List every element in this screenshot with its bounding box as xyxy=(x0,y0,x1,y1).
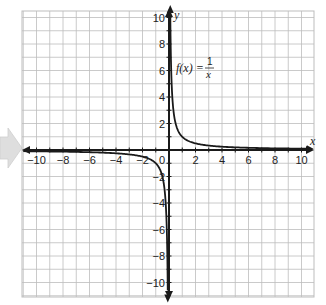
y-tick-label: −10 xyxy=(146,277,165,289)
x-tick-label: 4 xyxy=(219,154,225,166)
x-tick-label: 8 xyxy=(272,154,278,166)
function-graph: −10−8−6−4−2246810108642−2−4−6−8−100xy f(… xyxy=(0,0,326,305)
x-tick-label: −10 xyxy=(27,154,46,166)
function-label-numerator: 1 xyxy=(207,56,213,67)
y-tick-label: −4 xyxy=(152,197,165,209)
x-tick-label: 2 xyxy=(192,154,198,166)
curve-up-arrow-icon xyxy=(167,5,174,13)
x-tick-label: −6 xyxy=(83,154,96,166)
function-label-lhs: f(x) = xyxy=(176,61,204,75)
x-tick-label: −8 xyxy=(57,154,70,166)
y-tick-label: 6 xyxy=(159,65,165,77)
x-tick-label: 10 xyxy=(295,154,307,166)
origin-label: 0 xyxy=(159,154,165,166)
curve-down-arrow-icon xyxy=(164,294,171,302)
y-tick-label: −8 xyxy=(152,250,165,262)
function-label: f(x) = 1 x xyxy=(176,56,214,80)
x-axis-label: x xyxy=(309,134,316,148)
function-label-denominator: x xyxy=(205,68,211,80)
y-axis-label: y xyxy=(173,8,180,22)
y-tick-label: 10 xyxy=(153,12,165,24)
x-tick-label: −4 xyxy=(110,154,123,166)
y-tick-label: 8 xyxy=(159,38,165,50)
y-tick-label: 2 xyxy=(159,118,165,130)
curve-positive-branch xyxy=(170,9,310,149)
y-tick-label: −6 xyxy=(152,224,165,236)
y-tick-label: 4 xyxy=(159,91,165,103)
x-tick-label: 6 xyxy=(245,154,251,166)
